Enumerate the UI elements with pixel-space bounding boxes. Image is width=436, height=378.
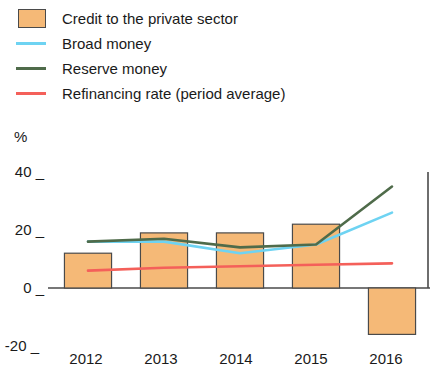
chart-plot-area (0, 0, 436, 378)
chart-container: Credit to the private sector Broad money… (0, 0, 436, 378)
